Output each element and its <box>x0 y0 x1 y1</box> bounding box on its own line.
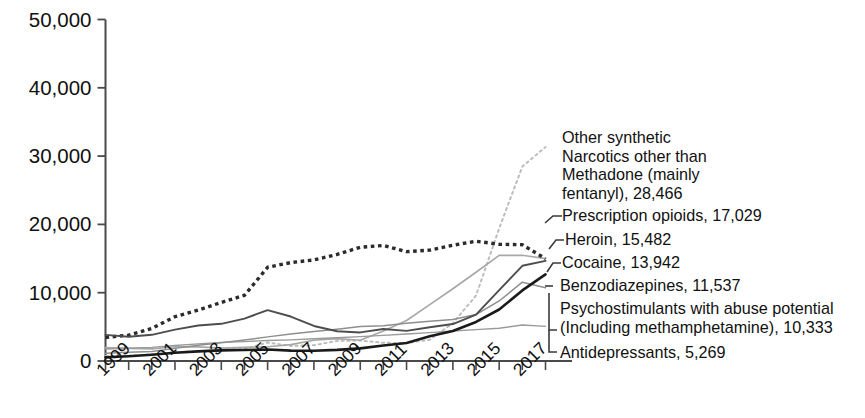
leader-heroin <box>549 240 564 249</box>
annotation-fentanyl-line2: Narcotics other than <box>562 147 707 166</box>
x-tick-label: 2013 <box>416 338 458 380</box>
leader-rx-opioids <box>545 216 562 223</box>
series-line <box>106 261 546 337</box>
x-tick-label: 2001 <box>139 338 181 380</box>
series-line <box>106 147 546 356</box>
annotation-fentanyl-line3: Methadone (mainly <box>562 165 707 184</box>
y-tick-label: 10,000 <box>29 281 92 304</box>
y-tick-label: 30,000 <box>29 144 92 167</box>
annotation-cocaine: Cocaine, 13,942 <box>562 253 680 272</box>
annotation-fentanyl-line1: Other synthetic <box>562 128 707 147</box>
annotation-psychostimulants-line2: (Including methamphetamine), 10,333 <box>560 318 834 337</box>
annotation-psychostimulants-line1: Psychostimulants with abuse potential <box>560 299 834 318</box>
y-tick-label: 0 <box>80 349 91 372</box>
axes-group <box>98 20 573 371</box>
y-tick-label: 40,000 <box>29 76 92 99</box>
y-axis-tick-labels: 010,00020,00030,00040,00050,000 <box>29 8 92 373</box>
x-tick-label: 2009 <box>324 338 366 380</box>
annotation-benzodiazepines: Benzodiazepines, 11,537 <box>560 276 741 295</box>
data-series-group <box>106 147 546 357</box>
x-tick-label: 1999 <box>92 338 134 380</box>
annotation-fentanyl-line4: fentanyl), 28,466 <box>562 184 707 203</box>
annotation-heroin: Heroin, 15,482 <box>565 230 671 249</box>
series-line <box>106 241 546 337</box>
annotation-antidepressants: Antidepressants, 5,269 <box>560 343 726 362</box>
annotation-fentanyl: Other synthetic Narcotics other than Met… <box>562 128 707 202</box>
leader-psychostim-bracket <box>549 293 557 330</box>
overdose-deaths-line-chart: 010,00020,00030,00040,00050,000 19992001… <box>0 0 865 418</box>
x-tick-label: 2005 <box>231 338 273 380</box>
annotation-psychostimulants: Psychostimulants with abuse potential (I… <box>560 299 834 336</box>
y-axis-ticks <box>98 20 106 362</box>
leader-antidepressants-bracket <box>549 330 557 352</box>
annotation-prescription-opioids: Prescription opioids, 17,029 <box>562 206 762 225</box>
x-tick-label: 2017 <box>509 338 551 380</box>
y-tick-label: 20,000 <box>29 212 92 235</box>
leader-cocaine <box>547 263 561 272</box>
x-tick-label: 2015 <box>463 338 505 380</box>
y-tick-label: 50,000 <box>29 8 92 31</box>
series-line <box>106 255 546 349</box>
